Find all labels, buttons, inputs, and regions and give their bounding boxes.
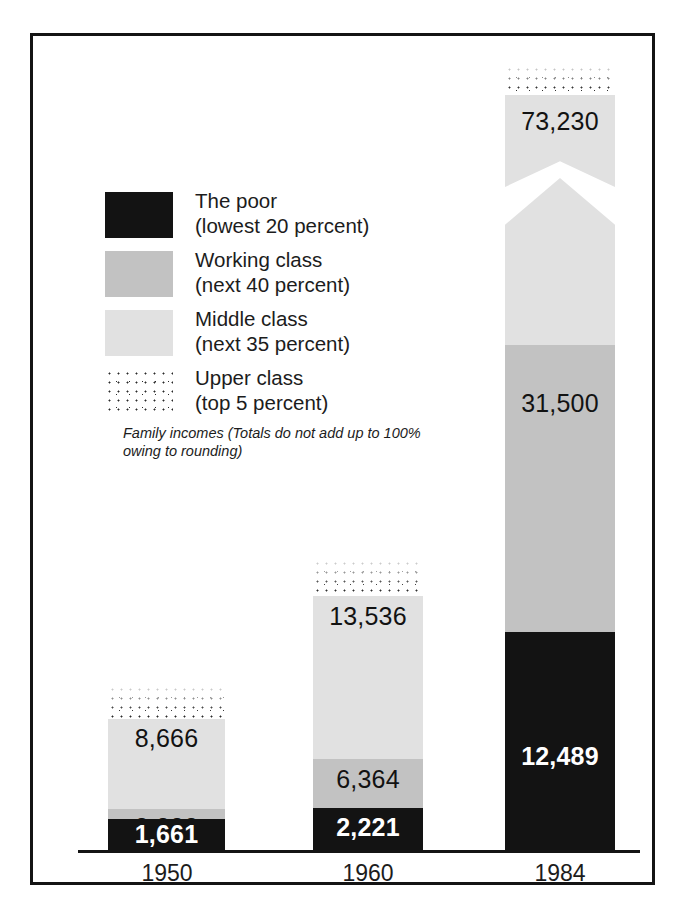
bar-1960-segment-upper-class [313,559,423,596]
bar-1984: 73,230 31,500 12,489 [505,33,615,850]
bar-1984-segment-the-poor: 12,489 [505,632,615,850]
bar-1960-segment-middle-class: 13,536 [313,596,423,759]
x-tick-label-1960: 1960 [288,860,448,887]
bar-1950-segment-upper-class [108,685,225,719]
x-axis-line [78,850,640,853]
x-tick-label-1984: 1984 [480,860,640,887]
bar-1984-label-working-class: 31,500 [505,389,615,418]
bar-1950-segment-middle-class: 8,666 [108,719,225,809]
bar-1984-segment-working-class: 31,500 [505,345,615,632]
bar-1960-label-middle-class: 13,536 [313,602,423,631]
bar-1960: 13,536 6,364 2,221 [313,33,423,850]
bar-1950-segment-the-poor: 1,661 [108,819,225,850]
bar-1984-label-middle-class: 73,230 [505,107,615,136]
bar-1984-segment-middle-class-upper-piece: 73,230 [505,95,615,187]
bar-1950-label-the-poor: 1,661 [108,820,225,849]
bar-1950: 8,666 3,822 1,661 [108,33,225,850]
bar-1984-label-the-poor: 12,489 [505,742,615,771]
bar-1960-label-working-class: 6,364 [313,765,423,794]
bar-1984-segment-upper-class [505,65,615,95]
x-tick-label-1950: 1950 [87,860,247,887]
bar-1950-label-middle-class: 8,666 [108,724,225,753]
plot-area: The poor (lowest 20 percent) Working cla… [30,33,655,885]
bar-1960-label-the-poor: 2,221 [313,813,423,842]
bar-1960-segment-the-poor: 2,221 [313,808,423,850]
chart-figure: Upper and lower limits of class incomes … [0,0,682,912]
